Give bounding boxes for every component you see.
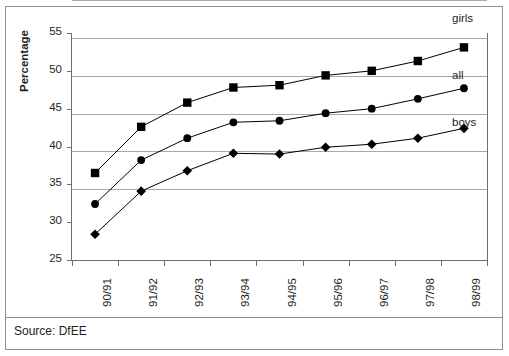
source-note: Source: DfEE bbox=[14, 324, 87, 338]
footer-divider bbox=[6, 317, 502, 318]
data-point-all-92-93 bbox=[183, 134, 191, 142]
data-point-boys-92-93 bbox=[182, 166, 192, 176]
data-point-girls-91-92 bbox=[137, 123, 145, 131]
data-point-girls-97-98 bbox=[414, 57, 422, 65]
data-point-all-91-92 bbox=[137, 156, 145, 164]
data-point-all-93-94 bbox=[229, 118, 237, 126]
data-point-all-97-98 bbox=[414, 95, 422, 103]
data-point-all-94-95 bbox=[276, 117, 284, 125]
data-point-all-90-91 bbox=[91, 200, 99, 208]
series-label-girls: girls bbox=[452, 12, 473, 24]
data-point-girls-93-94 bbox=[229, 83, 237, 91]
data-point-girls-95-96 bbox=[321, 71, 329, 79]
data-point-girls-90-91 bbox=[91, 169, 99, 177]
data-point-all-98-99 bbox=[460, 84, 468, 92]
series-label-all: all bbox=[452, 69, 464, 81]
chart-figure: Percentage 25303540455055 90/9191/9292/9… bbox=[0, 0, 509, 356]
data-point-all-95-96 bbox=[322, 109, 330, 117]
series-label-boys: boys bbox=[452, 116, 476, 128]
series-line-boys bbox=[95, 128, 464, 234]
data-point-girls-94-95 bbox=[275, 81, 283, 89]
data-point-girls-98-99 bbox=[460, 43, 468, 51]
data-point-boys-96-97 bbox=[367, 139, 377, 149]
data-point-boys-95-96 bbox=[321, 142, 331, 152]
data-point-boys-97-98 bbox=[413, 133, 423, 143]
data-point-boys-93-94 bbox=[229, 149, 239, 159]
data-series-layer bbox=[0, 0, 509, 356]
data-point-girls-96-97 bbox=[368, 67, 376, 75]
data-point-girls-92-93 bbox=[183, 98, 191, 106]
data-point-all-96-97 bbox=[368, 105, 376, 113]
data-point-boys-94-95 bbox=[275, 149, 285, 159]
